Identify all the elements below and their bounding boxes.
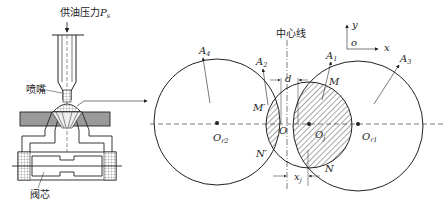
- point-N-prime-label: N′: [255, 148, 268, 159]
- point-M-prime-label: M′: [252, 102, 266, 113]
- origin-point-label: O: [279, 125, 287, 136]
- svg-text:o: o: [351, 37, 357, 48]
- svg-text:y: y: [351, 19, 358, 30]
- dimension-d-label: d: [285, 73, 291, 84]
- centerline-label: 中心线: [276, 27, 306, 39]
- detail-pointer-arrow-icon: [77, 101, 147, 106]
- center-label-r1: Or1: [362, 131, 377, 144]
- svg-text:x: x: [384, 42, 390, 53]
- nozzle-label: 喷嘴: [26, 84, 46, 95]
- dimension-xj-label: xj: [294, 171, 302, 184]
- receiver-dome: [53, 104, 81, 112]
- point-M-label: M: [328, 76, 340, 87]
- spool-label: 阀芯: [30, 188, 50, 200]
- area-A1-label: A1: [325, 50, 337, 63]
- servo-valve-figure: 供油压力Ps 喷嘴 阀芯: [0, 0, 446, 203]
- area-A3-label: A3: [399, 53, 411, 66]
- area-A2-label: A2: [255, 56, 267, 69]
- center-label-r2: Or2: [213, 132, 228, 145]
- area-A4-label: A4: [198, 45, 210, 58]
- point-N-label: N: [324, 163, 335, 174]
- overlap-geometry-diagram: 中心线 Or2 Oj Or1 O M M′ N N′ A4 A2 A1 A3 d: [150, 19, 446, 191]
- nozzle-valve-schematic: 供油压力Ps 喷嘴 阀芯: [12, 6, 147, 200]
- supply-pressure-label: 供油压力Ps: [60, 6, 111, 20]
- coordinate-axes-icon: y o x: [347, 19, 390, 53]
